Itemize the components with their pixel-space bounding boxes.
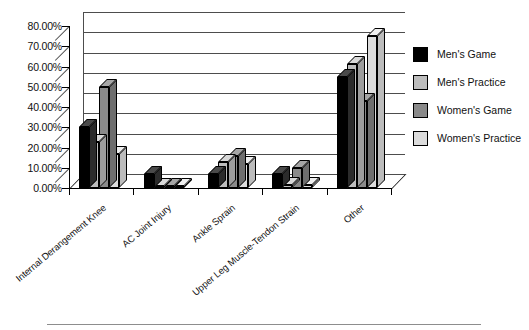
footer-divider (47, 324, 481, 325)
y-axis-tick (62, 188, 69, 189)
gridline-riser (55, 148, 70, 163)
legend-label: Men's Game (437, 48, 496, 60)
bar-face (272, 174, 282, 188)
bar-side (377, 28, 385, 188)
gridline (83, 12, 405, 13)
bar-side (109, 79, 117, 188)
legend-swatch (413, 103, 428, 118)
bar-4-0 (337, 77, 347, 188)
y-axis-tick (62, 87, 69, 88)
legend-item: Women's Practice (413, 124, 521, 152)
bar-face (144, 174, 154, 188)
legend-swatch (413, 75, 428, 90)
gridline-riser (55, 46, 70, 61)
y-axis-tick (62, 26, 69, 27)
gridline-riser (55, 127, 70, 142)
legend-label: Men's Practice (437, 76, 506, 88)
legend-swatch (413, 131, 428, 146)
legend-swatch (413, 47, 428, 62)
gridline (83, 53, 405, 54)
bar-1-0 (144, 174, 154, 188)
bar-side (89, 119, 97, 188)
y-axis-tick (62, 107, 69, 108)
bar-3-0 (272, 174, 282, 188)
legend-item: Men's Game (413, 40, 521, 68)
bar-side (367, 93, 375, 188)
gridline (83, 32, 405, 33)
bar-side (347, 69, 355, 188)
x-axis-tick (327, 188, 328, 195)
gridline-riser (55, 67, 70, 82)
gridline-riser (55, 87, 70, 102)
y-axis-tick (62, 168, 69, 169)
bar-face (337, 77, 347, 188)
bar-side (99, 134, 107, 188)
bar-2-0 (208, 174, 218, 188)
y-axis-tick (62, 148, 69, 149)
legend: Men's GameMen's PracticeWomen's GameWome… (413, 40, 521, 152)
legend-item: Men's Practice (413, 68, 521, 96)
bar-face (79, 127, 89, 188)
legend-label: Women's Game (437, 104, 512, 116)
y-axis-tick (62, 127, 69, 128)
bar-0-0 (79, 127, 89, 188)
x-axis-tick (391, 188, 392, 195)
axis-vertical (69, 26, 70, 189)
bar-side (357, 56, 365, 188)
legend-label: Women's Practice (437, 132, 521, 144)
y-axis-tick (62, 46, 69, 47)
gridline-riser (55, 107, 70, 122)
y-axis-tick (62, 67, 69, 68)
gridline-riser (55, 26, 70, 41)
legend-item: Women's Game (413, 96, 521, 124)
bar-face (208, 174, 218, 188)
gridline-riser (55, 168, 70, 183)
x-axis-tick (69, 188, 70, 195)
bar-chart: 0.00%10.00%20.00%30.00%40.00%50.00%60.00… (0, 0, 529, 330)
